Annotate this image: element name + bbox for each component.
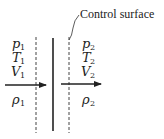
p2-subscript: 2 xyxy=(90,43,95,52)
rho1-symbol: ρ xyxy=(11,92,20,107)
control-surface-label: Control surface xyxy=(80,7,154,21)
rho2-symbol: ρ xyxy=(81,92,90,107)
p1-subscript: 1 xyxy=(20,43,25,52)
rho2-subscript: 2 xyxy=(90,99,95,108)
v2-subscript: 2 xyxy=(90,71,95,80)
left-state-labels: p 1 T 1 V 1 ρ 1 xyxy=(11,36,25,108)
normal-shock-control-volume-diagram: Control surface p 1 T 1 V 1 ρ 1 p 2 T 2 … xyxy=(0,0,164,139)
right-state-labels: p 2 T 2 V 2 ρ 2 xyxy=(81,36,95,108)
t1-subscript: 1 xyxy=(20,57,25,66)
v1-subscript: 1 xyxy=(20,71,25,80)
callout-leader-line xyxy=(69,15,79,40)
rho1-subscript: 1 xyxy=(20,99,25,108)
t2-subscript: 2 xyxy=(90,57,95,66)
